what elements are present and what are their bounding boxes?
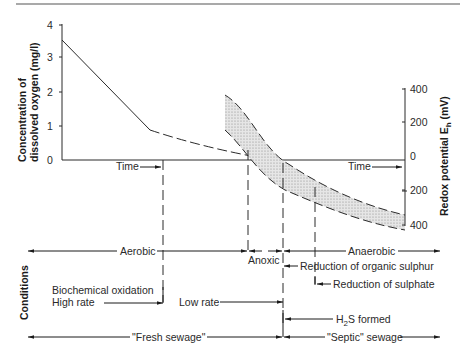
left-axis-title-line1: Concentration of xyxy=(16,78,28,162)
right-axis: 400 200 0 200 400 Redox potential Eh (mV… xyxy=(402,83,453,231)
time-label-left: Time xyxy=(116,160,139,172)
right-axis-title: Redox potential Eh (mV) xyxy=(438,96,453,216)
left-tick-3: 3 xyxy=(47,51,53,63)
left-tick-4: 4 xyxy=(47,19,53,31)
low-rate-label: Low rate xyxy=(179,296,219,308)
right-tick-0: 0 xyxy=(410,150,416,162)
aerobic-label: Aerobic xyxy=(120,245,156,257)
left-tick-1: 1 xyxy=(47,120,53,132)
do-curve-solid xyxy=(62,40,150,130)
anoxic-label: Anoxic xyxy=(248,254,280,266)
reduction-sulphate-label: Reduction of sulphate xyxy=(333,278,435,290)
h2s-formed-label: H2S formed xyxy=(336,313,391,328)
anaerobic-label: Anaerobic xyxy=(348,245,395,257)
sewage-conditions-diagram: 4 3 2 1 0 Concentration of dissolved oxy… xyxy=(0,0,463,360)
time-label-right: Time xyxy=(348,160,371,172)
biochemical-oxidation-label: Biochemical oxidation xyxy=(52,284,154,296)
left-axis-title-line2: dissolved oxygen (mg/l) xyxy=(28,42,40,162)
reduction-organic-sulphur-label: Reduction of organic sulphur xyxy=(300,260,434,272)
high-rate-label: High rate xyxy=(52,296,95,308)
fresh-sewage-label: "Fresh sewage" xyxy=(132,331,206,343)
left-axis: 4 3 2 1 0 Concentration of dissolved oxy… xyxy=(16,19,62,166)
right-tick-200: 200 xyxy=(410,116,428,128)
right-tick-minus-400: 400 xyxy=(410,219,428,231)
right-tick-minus-200: 200 xyxy=(410,184,428,196)
right-tick-400: 400 xyxy=(410,83,428,95)
left-tick-0: 0 xyxy=(47,154,53,166)
septic-sewage-label: "Septic" sewage xyxy=(327,331,403,343)
left-tick-2: 2 xyxy=(47,86,53,98)
conditions-title: Conditions xyxy=(18,265,30,320)
